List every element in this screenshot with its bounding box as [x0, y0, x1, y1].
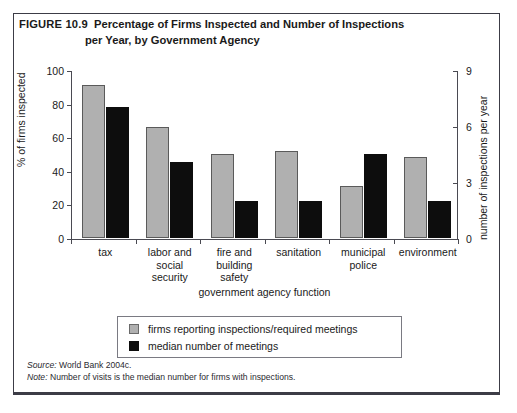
- bar-firms-reporting: [340, 186, 363, 238]
- bar-firms-reporting: [82, 85, 105, 238]
- figure-number-label: FIGURE 10.9: [19, 18, 88, 30]
- figure-title: FIGURE 10.9 Percentage of Firms Inspecte…: [19, 14, 459, 48]
- figure-bottom-rule: [13, 392, 500, 394]
- y-axis-right-title: number of inspections per year: [477, 96, 489, 240]
- legend-label: median number of meetings: [148, 340, 278, 352]
- bar-firms-reporting: [404, 157, 427, 238]
- x-axis-tick: [136, 239, 137, 244]
- bar-firms-reporting: [275, 151, 298, 238]
- y-axis-left-tick: [67, 205, 72, 206]
- y-axis-left-tick-label: 40: [52, 166, 64, 178]
- y-axis-left-tick: [67, 71, 72, 72]
- figure-title-line2: per Year, by Government Agency: [85, 33, 459, 48]
- y-axis-left-tick: [67, 138, 72, 139]
- y-axis-left-tick-label: 100: [46, 65, 64, 77]
- bar-median-meetings: [299, 201, 322, 238]
- y-axis-right-line: [457, 71, 458, 240]
- y-axis-left-title: % of firms inspected: [15, 72, 27, 167]
- y-axis-right-tick-label: 3: [466, 177, 472, 189]
- chart-plot-area: 020406080100 0369: [71, 71, 458, 239]
- bar-firms-reporting: [146, 127, 169, 238]
- figure-title-line1: Percentage of Firms Inspected and Number…: [94, 18, 404, 30]
- y-axis-right-tick: [453, 127, 458, 128]
- note-label: Note:: [27, 372, 48, 382]
- note-line: Note: Number of visits is the median num…: [27, 372, 295, 384]
- y-axis-left-tick-label: 80: [52, 99, 64, 111]
- y-axis-right-tick: [453, 71, 458, 72]
- x-axis-title: government agency function: [0, 286, 517, 298]
- bar-median-meetings: [364, 154, 387, 238]
- bar-median-meetings: [428, 201, 451, 238]
- x-axis-tick: [458, 239, 459, 244]
- y-axis-left-tick-label: 0: [58, 233, 64, 245]
- figure-footnotes: Source: World Bank 2004c. Note: Number o…: [27, 360, 295, 383]
- legend-item: firms reporting inspections/required mee…: [129, 323, 358, 335]
- x-axis-tick: [329, 239, 330, 244]
- bar-group: [146, 70, 193, 238]
- x-axis-tick: [71, 239, 72, 244]
- y-axis-left-tick: [67, 105, 72, 106]
- note-text: Number of visits is the median number fo…: [48, 372, 296, 382]
- legend-swatch-gray-icon: [129, 324, 139, 334]
- x-axis-category-label: environment: [368, 246, 488, 259]
- y-axis-right-tick: [453, 183, 458, 184]
- source-line: Source: World Bank 2004c.: [27, 360, 295, 372]
- x-axis-tick: [200, 239, 201, 244]
- source-text: World Bank 2004c.: [57, 360, 132, 370]
- x-axis-tick: [394, 239, 395, 244]
- bar-group: [211, 70, 258, 238]
- y-axis-right-tick-label: 9: [466, 65, 472, 77]
- y-axis-left-line: [71, 71, 72, 240]
- bar-firms-reporting: [211, 154, 234, 238]
- legend-item: median number of meetings: [129, 340, 278, 352]
- y-axis-left-tick: [67, 172, 72, 173]
- bar-median-meetings: [106, 107, 129, 238]
- source-label: Source:: [27, 360, 57, 370]
- y-axis-left-tick-label: 60: [52, 132, 64, 144]
- legend-swatch-black-icon: [129, 341, 139, 351]
- y-axis-left-tick-label: 20: [52, 199, 64, 211]
- y-axis-right-tick-label: 0: [466, 233, 472, 245]
- bar-median-meetings: [170, 162, 193, 238]
- bar-median-meetings: [235, 201, 258, 238]
- bar-group: [404, 70, 451, 238]
- x-axis-tick: [265, 239, 266, 244]
- y-axis-right-tick-label: 6: [466, 121, 472, 133]
- bar-group: [82, 70, 129, 238]
- bar-group: [275, 70, 322, 238]
- chart-legend: firms reporting inspections/required mee…: [117, 316, 402, 358]
- bar-group: [340, 70, 387, 238]
- legend-label: firms reporting inspections/required mee…: [148, 323, 358, 335]
